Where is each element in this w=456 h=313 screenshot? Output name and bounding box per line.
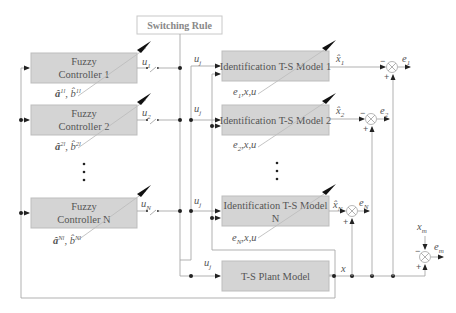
tracking-error-label: em [434,241,444,255]
svg-text:Fuzzy: Fuzzy [71,201,97,212]
switch-2 [150,119,156,124]
summing-junction-1 [387,62,398,73]
fuzzy-controller-1: Fuzzy Controller 1 [31,53,137,83]
svg-text:Fuzzy: Fuzzy [71,108,97,119]
x-to-models-bus [212,74,220,250]
svg-text:+: + [416,262,421,272]
model-1-adapt-signals: e1,x,u [233,86,256,100]
adaptation-arrowhead-icon [137,185,151,197]
summing-junction-2 [366,114,377,125]
fuzzy-controller-n: Fuzzy Controller N [31,198,137,228]
controller-2-output-label: u2 [142,107,151,121]
model-n-adapt-signals: eN,x,u [232,232,257,246]
summing-junction-n [347,206,358,217]
adaptation-arrowhead-icon [322,40,336,51]
ts-plant-model: T-S Plant Model [222,261,329,291]
svg-text:T-S Plant Model: T-S Plant Model [241,271,310,282]
controller-n-output-label: uN [141,198,151,212]
plant-output-label: x [340,263,346,274]
switch-1 [150,67,156,72]
model-2-output-label: x̂2 [335,105,345,119]
model-2-adapt-signals: e2,x,u [233,139,256,153]
svg-text:Controller 2: Controller 2 [58,121,109,132]
reference-label: xm [416,221,427,235]
switching-rule-block: Switching Rule [137,16,222,34]
controller-n-params: âNl, b̂Nl [53,234,81,246]
svg-text:uj: uj [194,195,201,209]
adaptation-arrowhead-icon [137,93,151,105]
svg-text:N: N [272,213,280,224]
svg-text:+: + [343,217,348,227]
svg-text:Controller N: Controller N [57,214,111,225]
svg-text:Fuzzy: Fuzzy [71,56,97,67]
summing-junction-reference [420,252,431,263]
adaptation-arrowhead-icon [322,184,336,195]
svg-text:−: − [360,108,365,118]
svg-text:+: + [384,72,389,82]
error-2-label: e2 [380,105,389,119]
error-1-label: e1 [402,53,410,67]
error-n-label: eN [359,197,369,211]
svg-text:Controller 1: Controller 1 [58,69,109,80]
identification-model-1: Identification T-S Model 1 [220,51,332,81]
svg-text:uj: uj [204,257,211,271]
svg-text:Identification T-S Model 1: Identification T-S Model 1 [220,61,332,72]
controller-1-params: â1l, b̂1l [55,87,81,99]
svg-text:uj: uj [194,53,201,67]
svg-text:Identification T-S Model 2: Identification T-S Model 2 [220,115,332,126]
fuzzy-controller-2: Fuzzy Controller 2 [31,105,137,135]
uj-bus [180,66,220,260]
adaptation-arrowhead-icon [322,93,336,104]
svg-text:uj: uj [194,103,201,117]
adaptation-arrowhead-icon [137,41,151,53]
svg-text:−: − [380,56,385,66]
identification-model-n: Identification T-S Model N [222,196,329,226]
svg-text:−: − [415,246,420,256]
svg-text:+: + [363,124,368,134]
switching-rule-label: Switching Rule [147,20,212,31]
switched-fuzzy-control-diagram: Switching Rule Fuzzy Controller 1 â1l, b… [0,0,456,313]
model-1-output-label: x̂1 [335,53,344,67]
controller-2-params: â2l, b̂2l [55,140,81,152]
